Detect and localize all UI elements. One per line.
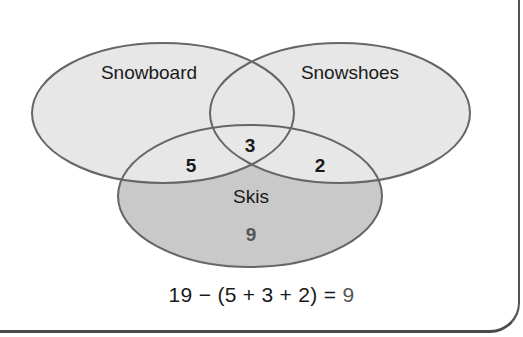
skis-label: Skis — [233, 186, 269, 207]
snowboard-label: Snowboard — [101, 62, 197, 83]
equation-result: 9 — [342, 283, 354, 306]
region-skis-only: 9 — [246, 224, 257, 245]
region-snowshoes-skis: 2 — [315, 155, 326, 176]
region-snowboard-skis: 5 — [186, 155, 197, 176]
equation: 19 − (5 + 3 + 2) = 9 — [0, 283, 523, 307]
equation-lhs: 19 − (5 + 3 + 2) = — [169, 283, 337, 306]
snowshoes-label: Snowshoes — [301, 62, 399, 83]
region-all-three: 3 — [245, 135, 256, 156]
